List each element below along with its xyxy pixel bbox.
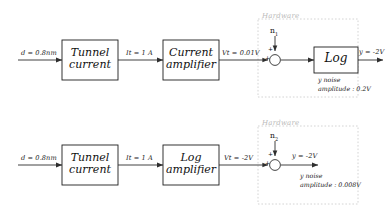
block-line-1: Log bbox=[314, 52, 358, 65]
sum-sign-noise-top: + bbox=[268, 45, 273, 52]
summing-junction-bottom bbox=[270, 160, 281, 171]
block-label-current-amplifier: Current amplifier bbox=[163, 47, 219, 72]
input-label-top: d = 0.8nm bbox=[21, 50, 57, 58]
noise-note-line-2: amplitude : 0.2V bbox=[318, 85, 371, 94]
block-line-2: amplifier bbox=[163, 164, 219, 176]
noise-index: 2 bbox=[275, 136, 278, 142]
signal-label-vt-bottom: Vt = -2V bbox=[224, 155, 253, 163]
block-line-2: current bbox=[62, 164, 118, 176]
noise-note-bottom: y noise amplitude : 0.008V bbox=[300, 172, 361, 189]
output-label-bottom: y = -2V bbox=[292, 153, 317, 161]
sum-sign-noise-bottom: + bbox=[268, 150, 273, 157]
output-label-top: y = -2V bbox=[359, 49, 384, 57]
block-line-2: amplifier bbox=[163, 59, 219, 71]
signal-label-it-bottom: It = 1 A bbox=[126, 155, 153, 163]
noise-note-line-2: amplitude : 0.008V bbox=[300, 181, 361, 190]
noise-index: 1 bbox=[275, 31, 278, 37]
block-diagram-canvas: d = 0.8nm Tunnel current It = 1 A Curren… bbox=[0, 0, 388, 215]
input-label-bottom: d = 0.8nm bbox=[21, 155, 57, 163]
noise-note-line-1: y noise bbox=[300, 172, 361, 181]
noise-label-bottom: n2 bbox=[270, 131, 278, 142]
noise-note-line-1: y noise bbox=[318, 76, 371, 85]
signal-label-vt-top: Vt = 0.01V bbox=[222, 50, 260, 58]
summing-junction-top bbox=[270, 55, 281, 66]
block-line-2: current bbox=[62, 59, 118, 71]
sum-sign-input-top: + bbox=[265, 54, 270, 61]
block-label-log-amplifier: Log amplifier bbox=[163, 152, 219, 177]
noise-label-top: n1 bbox=[270, 26, 278, 37]
block-label-log: Log bbox=[314, 52, 358, 65]
sum-sign-input-bottom: + bbox=[265, 159, 270, 166]
block-label-tunnel-current-bottom: Tunnel current bbox=[62, 152, 118, 177]
hardware-label-bottom: Hardware bbox=[262, 119, 299, 127]
noise-note-top: y noise amplitude : 0.2V bbox=[318, 76, 371, 93]
signal-label-it-top: It = 1 A bbox=[126, 50, 153, 58]
block-label-tunnel-current-top: Tunnel current bbox=[62, 47, 118, 72]
hardware-label-top: Hardware bbox=[262, 12, 299, 20]
